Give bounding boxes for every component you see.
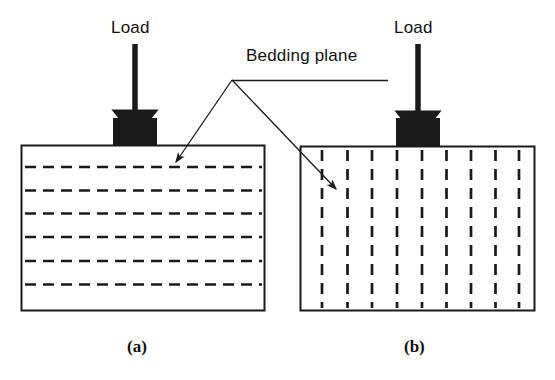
- load-label-right: Load: [394, 18, 433, 38]
- panel-b-block-outline: [301, 147, 535, 311]
- bedding-plane-figure: Bedding plane Load Load (a) (b): [0, 0, 555, 380]
- panel-a-group: [22, 44, 265, 311]
- panel-label-b: (b): [404, 337, 425, 357]
- panel-label-a: (a): [127, 337, 147, 357]
- bedding-plane-label: Bedding plane: [246, 46, 357, 66]
- panel-b-group: [301, 44, 535, 311]
- panel-b-loading-plate: [396, 118, 440, 146]
- panel-a-loading-plate: [113, 118, 157, 145]
- load-label-left: Load: [111, 18, 150, 38]
